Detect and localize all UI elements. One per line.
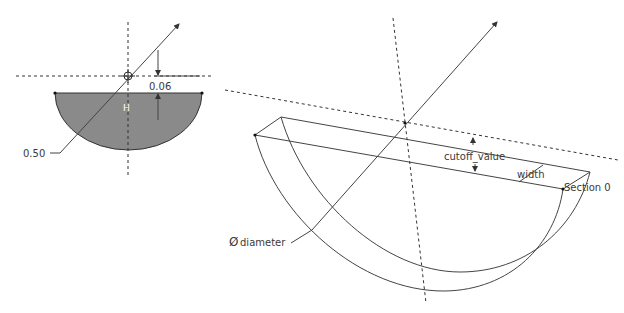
origin-icon[interactable] [121, 69, 135, 83]
diameter-leader [312, 22, 497, 230]
left-end-edge[interactable] [255, 117, 281, 135]
front-arc[interactable] [255, 135, 563, 291]
diameter-label[interactable]: diameter [240, 237, 286, 248]
back-top-edge[interactable] [281, 117, 590, 172]
right-3d-view: cutoff_value width Section 0 Ø diameter [225, 18, 618, 303]
endpoint-right[interactable] [200, 91, 203, 94]
diameter-symbol-icon: Ø [229, 235, 238, 249]
diameter-leader-tail [291, 230, 312, 243]
endpoint-left[interactable] [53, 91, 56, 94]
section-label[interactable]: Section 0 [564, 182, 611, 193]
front-top-edge[interactable] [255, 135, 563, 189]
width-label[interactable]: width [517, 169, 545, 180]
vertex-front-left[interactable] [253, 133, 256, 136]
offset-dim-label: 0.06 [149, 81, 171, 92]
radius-dim-label[interactable]: 0.50 [23, 148, 45, 159]
left-section-view: H 0.06 0.50 [16, 22, 214, 175]
cutoff-value-label[interactable]: cutoff_value [444, 151, 505, 163]
cad-canvas: H 0.06 0.50 cutoff_valu [0, 0, 624, 313]
back-arc[interactable] [281, 117, 590, 272]
horizontal-constraint-icon[interactable]: H [123, 103, 130, 113]
